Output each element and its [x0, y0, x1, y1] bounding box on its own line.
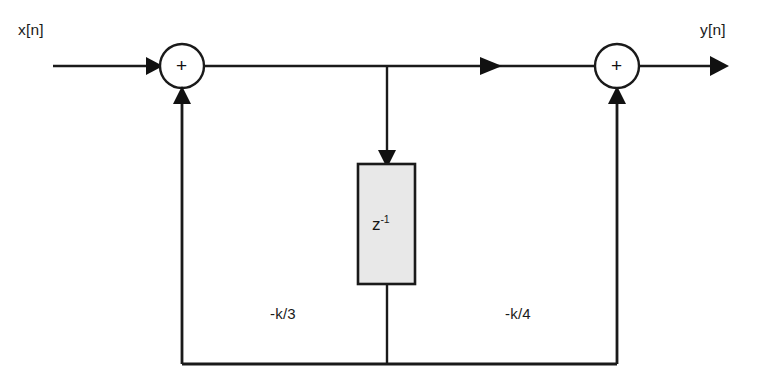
- forward-arrowhead-icon: [480, 57, 502, 75]
- delay-base-text: z: [372, 215, 381, 234]
- output-signal-label: y[n]: [700, 21, 726, 39]
- summer-right-plus-label: +: [611, 56, 622, 75]
- delay-block-label: z-1: [372, 213, 389, 235]
- coefficient-label-left: -k/3: [270, 305, 296, 322]
- scan-artifact-top: [128, 0, 150, 4]
- coefficient-label-right: -k/4: [505, 305, 531, 322]
- feedback-left-arrowhead-icon: [173, 86, 191, 104]
- delay-exponent-text: -1: [381, 213, 390, 225]
- input-signal-label: x[n]: [18, 21, 44, 39]
- diagram-svg: [0, 0, 760, 380]
- summer-left-plus-label: +: [176, 56, 187, 75]
- output-arrowhead-icon: [710, 56, 729, 76]
- diagram-canvas: x[n] y[n] + + z-1 -k/3 -k/4: [0, 0, 760, 380]
